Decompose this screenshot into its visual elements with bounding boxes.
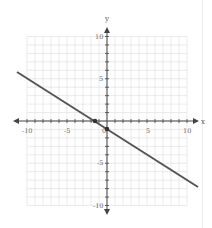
tick-label: -10	[22, 127, 32, 135]
x-intercept-point	[93, 119, 98, 124]
coordinate-plane: x y -10 -5 0 5 10 10 5 -5 -10	[0, 0, 212, 228]
tick-label: 10	[183, 127, 191, 135]
y-axis-label: y	[104, 15, 109, 23]
tick-label: 5	[99, 75, 103, 83]
tick-label: -5	[64, 127, 70, 135]
tick-label: -5	[97, 159, 103, 167]
y-intercept-point	[105, 127, 110, 132]
tick-label: -10	[93, 202, 103, 210]
x-axis-label: x	[201, 118, 205, 126]
tick-label: 5	[146, 127, 150, 135]
tick-label: 10	[95, 33, 103, 41]
